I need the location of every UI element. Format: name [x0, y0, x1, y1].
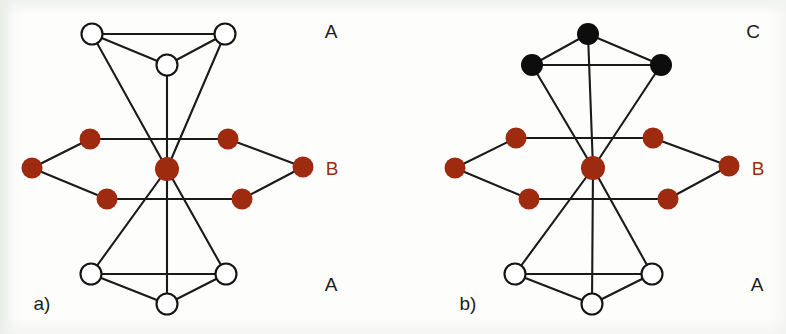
bond-edge — [91, 274, 167, 304]
bond-edge — [32, 168, 107, 199]
atom-node-b[interactable] — [519, 189, 540, 210]
bond-edge — [455, 168, 529, 199]
atom-node-a[interactable] — [157, 55, 178, 76]
atom-node-a[interactable] — [216, 264, 237, 285]
label-a-bottom: A — [325, 274, 338, 295]
atom-node-c[interactable] — [521, 54, 543, 76]
atom-node-a[interactable] — [157, 294, 178, 315]
atom-node-b[interactable] — [232, 189, 253, 210]
atom-node-a[interactable] — [642, 264, 663, 285]
bond-edge — [593, 65, 661, 168]
panel-a-caption: a) — [34, 293, 51, 314]
atom-node-a[interactable] — [82, 24, 103, 45]
atom-node-b[interactable] — [218, 129, 239, 150]
bond-edge — [228, 139, 303, 167]
bond-edge — [167, 169, 226, 274]
atom-node-b[interactable] — [22, 158, 43, 179]
atom-node-b[interactable] — [445, 158, 466, 179]
bond-edge — [588, 34, 661, 65]
atom-node-b[interactable] — [97, 189, 118, 210]
atom-node-a[interactable] — [582, 294, 603, 315]
atom-node-c[interactable] — [577, 23, 599, 45]
bond-edge — [592, 168, 593, 304]
bond-edge — [92, 34, 167, 169]
atom-node-c[interactable] — [650, 54, 672, 76]
bond-edge — [515, 168, 593, 274]
bond-edge — [532, 65, 593, 168]
atom-node-b[interactable] — [506, 128, 527, 149]
label-b-bottom: A — [751, 274, 764, 295]
panel-b-caption: b) — [460, 293, 477, 314]
bond-edge — [593, 168, 652, 274]
atom-node-b[interactable] — [581, 156, 605, 180]
atom-node-a[interactable] — [215, 24, 236, 45]
bond-edge — [515, 274, 592, 304]
figure-canvas: ABAa)CBAb) — [0, 0, 786, 334]
atom-node-a[interactable] — [505, 264, 526, 285]
bond-edge — [91, 169, 167, 274]
atom-node-b[interactable] — [658, 189, 679, 210]
label-b-middle: B — [752, 158, 765, 179]
bond-edge — [588, 34, 593, 168]
bond-edge — [92, 34, 167, 65]
atom-node-b[interactable] — [155, 157, 179, 181]
label-a-top: A — [325, 21, 338, 42]
stacking-diagram: ABAa)CBAb) — [0, 0, 786, 334]
atom-node-b[interactable] — [293, 157, 314, 178]
bond-edge — [167, 34, 225, 169]
edges-layer — [32, 34, 729, 304]
atom-node-b[interactable] — [80, 129, 101, 150]
label-b-top: C — [746, 21, 760, 42]
atom-node-a[interactable] — [81, 264, 102, 285]
nodes-layer — [22, 23, 740, 315]
atom-node-b[interactable] — [643, 128, 664, 149]
atom-node-b[interactable] — [719, 156, 740, 177]
label-a-middle: B — [326, 158, 339, 179]
bond-edge — [653, 138, 729, 166]
